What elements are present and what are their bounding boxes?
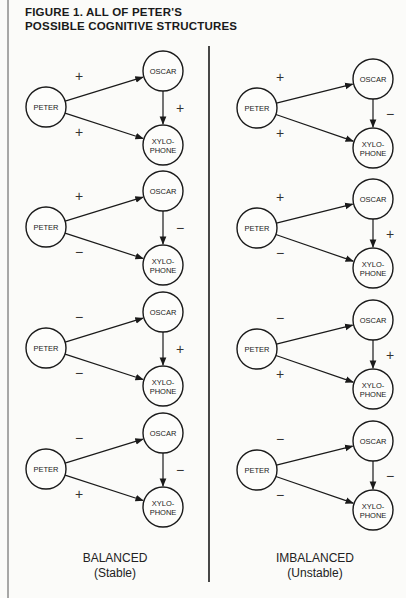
xylophone-node: XYLO-PHONE (143, 245, 183, 285)
peter-oscar-sign: + (276, 189, 284, 205)
oscar-node: OSCAR (143, 171, 183, 211)
svg-text:XYLO-: XYLO- (152, 137, 175, 146)
svg-text:PETER: PETER (244, 104, 270, 113)
oscar-xylophone-sign: − (176, 220, 184, 236)
peter-to-xylophone-arrow (276, 477, 353, 504)
peter-node: PETER (26, 449, 66, 489)
peter-oscar-sign: + (276, 69, 284, 85)
svg-text:OSCAR: OSCAR (150, 67, 177, 76)
svg-text:OSCAR: OSCAR (150, 187, 177, 196)
oscar-node: OSCAR (143, 292, 183, 332)
svg-text:PHONE: PHONE (150, 387, 177, 396)
xylophone-node: XYLO-PHONE (353, 248, 393, 288)
imbalanced-label: IMBALANCED (240, 551, 390, 566)
peter-node: PETER (26, 328, 66, 368)
peter-oscar-sign: + (75, 68, 83, 84)
svg-text:PETER: PETER (33, 223, 59, 232)
svg-text:OSCAR: OSCAR (360, 437, 387, 446)
peter-node: PETER (26, 207, 66, 247)
svg-text:XYLO-: XYLO- (362, 502, 385, 511)
peter-node: PETER (237, 88, 277, 128)
peter-xylophone-sign: − (75, 244, 83, 260)
svg-text:OSCAR: OSCAR (150, 308, 177, 317)
svg-text:PETER: PETER (33, 465, 59, 474)
svg-text:OSCAR: OSCAR (150, 429, 177, 438)
peter-oscar-sign: − (75, 309, 83, 325)
peter-xylophone-sign: − (276, 487, 284, 503)
oscar-xylophone-sign: + (176, 100, 184, 116)
svg-text:OSCAR: OSCAR (360, 195, 387, 204)
svg-text:XYLO-: XYLO- (362, 260, 385, 269)
imbalanced-caption: IMBALANCED (Unstable) (240, 551, 390, 581)
peter-xylophone-sign: − (276, 245, 284, 261)
balanced-structure-2: PETEROSCARXYLO-PHONE+−− (26, 171, 184, 285)
xylophone-node: XYLO-PHONE (353, 369, 393, 409)
peter-xylophone-sign: + (75, 486, 83, 502)
balanced-caption: BALANCED (Stable) (40, 551, 190, 581)
svg-text:PETER: PETER (244, 345, 270, 354)
svg-text:XYLO-: XYLO- (152, 499, 175, 508)
xylophone-node: XYLO-PHONE (353, 490, 393, 530)
imbalanced-structure-4: PETEROSCARXYLO-PHONE−−− (237, 421, 394, 530)
oscar-xylophone-sign: − (176, 462, 184, 478)
peter-to-xylophone-arrow (276, 235, 353, 262)
svg-text:XYLO-: XYLO- (152, 257, 175, 266)
xylophone-node: XYLO-PHONE (143, 125, 183, 165)
balanced-structure-4: PETEROSCARXYLO-PHONE−+− (26, 413, 184, 527)
peter-node: PETER (237, 208, 277, 248)
peter-xylophone-sign: + (276, 125, 284, 141)
balanced-label: BALANCED (40, 551, 190, 566)
peter-xylophone-sign: + (276, 366, 284, 382)
svg-text:PHONE: PHONE (150, 266, 177, 275)
peter-oscar-sign: + (75, 188, 83, 204)
svg-text:PHONE: PHONE (360, 390, 387, 399)
oscar-node: OSCAR (353, 179, 393, 219)
oscar-node: OSCAR (353, 300, 393, 340)
oscar-xylophone-sign: + (386, 226, 394, 242)
svg-text:PHONE: PHONE (360, 269, 387, 278)
oscar-node: OSCAR (143, 413, 183, 453)
unstable-label: (Unstable) (240, 566, 390, 581)
svg-text:PHONE: PHONE (360, 511, 387, 520)
peter-to-xylophone-arrow (276, 115, 353, 142)
svg-text:OSCAR: OSCAR (360, 75, 387, 84)
peter-node: PETER (26, 87, 66, 127)
peter-xylophone-sign: − (75, 365, 83, 381)
peter-node: PETER (237, 329, 277, 369)
svg-text:PHONE: PHONE (150, 508, 177, 517)
peter-to-oscar-arrow (276, 325, 352, 344)
oscar-node: OSCAR (353, 421, 393, 461)
oscar-node: OSCAR (143, 51, 183, 91)
oscar-node: OSCAR (353, 59, 393, 99)
svg-text:XYLO-: XYLO- (362, 140, 385, 149)
oscar-xylophone-sign: + (176, 341, 184, 357)
svg-text:XYLO-: XYLO- (362, 381, 385, 390)
xylophone-node: XYLO-PHONE (143, 487, 183, 527)
xylophone-node: XYLO-PHONE (353, 128, 393, 168)
svg-text:XYLO-: XYLO- (152, 378, 175, 387)
peter-node: PETER (237, 450, 277, 490)
peter-oscar-sign: − (276, 431, 284, 447)
peter-xylophone-sign: + (75, 124, 83, 140)
svg-text:PHONE: PHONE (360, 149, 387, 158)
peter-to-oscar-arrow (276, 446, 352, 465)
imbalanced-structure-1: PETEROSCARXYLO-PHONE++− (237, 59, 394, 168)
svg-text:PETER: PETER (33, 103, 59, 112)
peter-oscar-sign: − (75, 430, 83, 446)
peter-to-xylophone-arrow (276, 356, 353, 383)
svg-text:OSCAR: OSCAR (360, 316, 387, 325)
balanced-structure-3: PETEROSCARXYLO-PHONE−−+ (26, 292, 184, 406)
peter-oscar-sign: − (276, 310, 284, 326)
oscar-xylophone-sign: − (386, 106, 394, 122)
imbalanced-structure-2: PETEROSCARXYLO-PHONE+−+ (237, 179, 394, 288)
svg-text:PETER: PETER (33, 344, 59, 353)
peter-to-oscar-arrow (276, 84, 352, 103)
peter-to-oscar-arrow (276, 204, 352, 223)
oscar-xylophone-sign: − (386, 468, 394, 484)
cognitive-structures-diagram: PETEROSCARXYLO-PHONE+++PETEROSCARXYLO-PH… (0, 0, 406, 598)
svg-text:PHONE: PHONE (150, 146, 177, 155)
oscar-xylophone-sign: + (386, 347, 394, 363)
stable-label: (Stable) (40, 566, 190, 581)
svg-text:PETER: PETER (244, 224, 270, 233)
imbalanced-structure-3: PETEROSCARXYLO-PHONE−++ (237, 300, 394, 409)
